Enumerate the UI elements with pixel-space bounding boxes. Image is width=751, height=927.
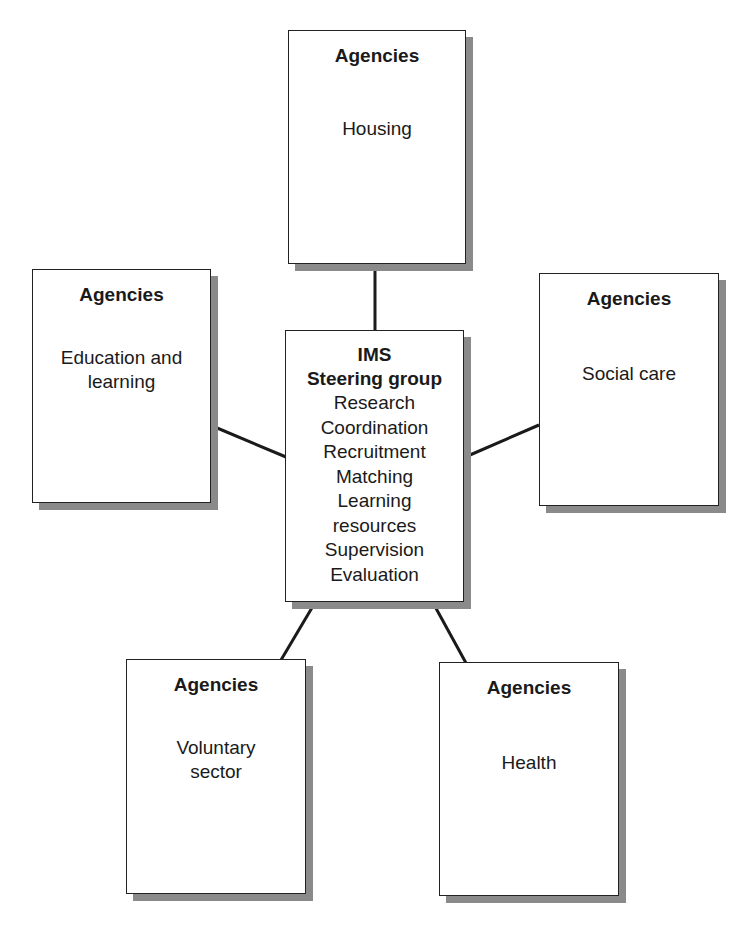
agency-title: Agencies — [440, 677, 618, 699]
connector-bottom-left — [281, 601, 316, 660]
steering-item: resources — [286, 514, 463, 539]
agency-label: learning — [33, 370, 210, 394]
steering-item: Supervision — [286, 538, 463, 563]
connector-left — [210, 425, 286, 457]
agency-title: Agencies — [127, 674, 305, 696]
connector-bottom-right — [432, 601, 466, 663]
agency-label: Health — [440, 751, 618, 775]
steering-title-line-1: IMS — [286, 343, 463, 367]
agency-box-housing: Agencies Housing — [288, 30, 466, 264]
agency-box-education: Agencies Education and learning — [32, 269, 211, 503]
agency-box-health: Agencies Health — [439, 662, 619, 896]
agency-title: Agencies — [33, 284, 210, 306]
agency-label: Housing — [289, 117, 465, 141]
steering-item: Matching — [286, 465, 463, 490]
agency-label: Voluntary — [127, 736, 305, 760]
steering-item: Research — [286, 391, 463, 416]
agency-title: Agencies — [540, 288, 718, 310]
agency-title: Agencies — [289, 45, 465, 67]
steering-item: Evaluation — [286, 563, 463, 588]
steering-item: Coordination — [286, 416, 463, 441]
agency-label: Social care — [540, 362, 718, 386]
agency-box-social-care: Agencies Social care — [539, 273, 719, 506]
steering-group-box: IMS Steering group Research Coordination… — [285, 330, 464, 602]
steering-item: Learning — [286, 489, 463, 514]
steering-item: Recruitment — [286, 440, 463, 465]
connector-right — [463, 425, 539, 458]
agency-label: Education and — [33, 346, 210, 370]
agency-label: sector — [127, 760, 305, 784]
steering-title-line-2: Steering group — [286, 367, 463, 391]
agency-box-voluntary-sector: Agencies Voluntary sector — [126, 659, 306, 894]
